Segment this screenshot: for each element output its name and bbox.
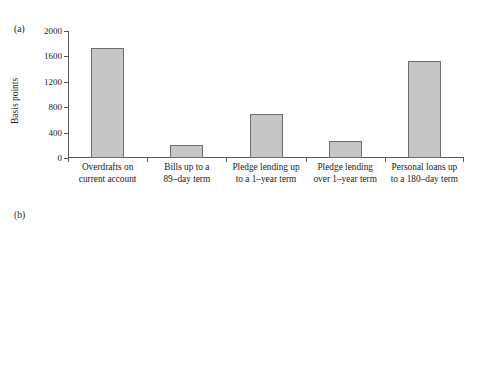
y-tick-mark [64,31,68,32]
x-axis-category-label: Bills up to a89–day term [147,162,226,185]
bar [170,145,203,158]
y-tick-mark [64,107,68,108]
figure-two-panel-bar-charts: (a) Basis points 0400800120016002000 Ove… [0,0,478,381]
panel-a-tag: (a) [14,24,25,34]
x-axis-category-label: Pledge lendingover 1–year term [306,162,385,185]
bar [91,48,124,158]
x-axis-category-label-line: Pledge lending up [226,162,305,174]
y-tick-label: 800 [49,102,63,112]
x-axis-category-label: Overdrafts oncurrent account [68,162,147,185]
x-axis-category-label-line: over 1–year term [306,174,385,186]
x-axis-category-label-line: 89–day term [147,174,226,186]
y-tick-label: 1200 [44,77,62,87]
y-tick-label: 0 [58,153,63,163]
panel-b: (b) Risk indicator spread -0.200.000.200… [0,190,478,381]
x-axis-category-label: Pledge lending upto a 1–year term [226,162,305,185]
y-tick-label: 2000 [44,26,62,36]
panel-a-y-axis-line [68,31,69,158]
panel-a-x-axis-labels: Overdrafts oncurrent accountBills up to … [68,162,464,185]
y-tick-label: 1600 [44,51,62,61]
x-axis-category-label-line: Personal loans up [385,162,464,174]
y-tick-mark [64,82,68,83]
bar [250,114,283,158]
y-tick-mark [64,56,68,57]
x-axis-category-label-line: Pledge lending [306,162,385,174]
x-axis-category-label-line: to a 180–day term [385,174,464,186]
x-axis-category-label: Personal loans upto a 180–day term [385,162,464,185]
y-tick-mark [64,133,68,134]
x-axis-category-label-line: Overdrafts on [68,162,147,174]
x-axis-category-label-line: Bills up to a [147,162,226,174]
x-axis-category-label-line: to a 1–year term [226,174,305,186]
panel-a-plot-area: 0400800120016002000 [68,31,464,158]
bar [329,141,362,158]
panel-a: (a) Basis points 0400800120016002000 Ove… [0,0,478,190]
panel-a-y-axis-title: Basis points [10,78,20,124]
y-tick-label: 400 [49,128,63,138]
bar [408,61,441,158]
panel-b-tag: (b) [14,210,25,220]
x-axis-category-label-line: current account [68,174,147,186]
